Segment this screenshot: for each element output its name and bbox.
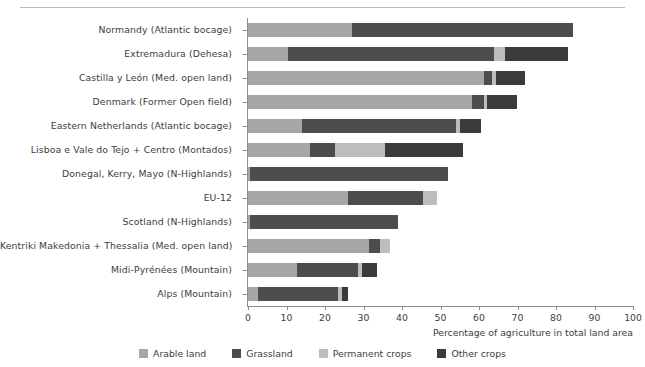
y-axis-line (247, 18, 248, 306)
stacked-bar[interactable] (248, 287, 348, 301)
bar-segment-grassland (288, 47, 494, 61)
x-axis-tick (556, 306, 557, 310)
x-axis-tick-label: 40 (396, 312, 408, 323)
bar-segment-arable-land (248, 47, 288, 61)
bar-segment-grassland (297, 263, 358, 277)
legend-swatch-icon (139, 349, 148, 358)
stacked-bar[interactable] (248, 143, 463, 157)
x-axis-tick-label: 100 (624, 312, 642, 323)
category-label-column: Normandy (Atlantic bocage)Extremadura (D… (0, 18, 238, 306)
legend-label: Other crops (451, 348, 506, 359)
legend-item[interactable]: Arable land (139, 348, 206, 359)
bar-segment-grassland (310, 143, 335, 157)
category-label: Scotland (N-Highlands) (0, 210, 238, 234)
bar-segment-arable-land (248, 287, 258, 301)
y-axis-tick (243, 270, 248, 271)
x-axis-tick-label: 0 (245, 312, 251, 323)
stacked-bar[interactable] (248, 167, 448, 181)
bar-row (248, 42, 633, 66)
x-axis-tick-label: 20 (319, 312, 331, 323)
stacked-bar[interactable] (248, 23, 573, 37)
category-label: Kentriki Makedonia + Thessalia (Med. ope… (0, 234, 238, 258)
stacked-bar[interactable] (248, 119, 481, 133)
bar-segment-grassland (250, 167, 448, 181)
y-axis-tick (243, 126, 248, 127)
x-axis-tick (248, 306, 249, 310)
bar-row (248, 138, 633, 162)
y-axis-tick (243, 198, 248, 199)
bar-row (248, 18, 633, 42)
stacked-bar[interactable] (248, 47, 568, 61)
bar-segment-grassland (352, 23, 573, 37)
legend-label: Arable land (153, 348, 206, 359)
bar-segment-grassland (250, 215, 398, 229)
y-axis-tick (243, 150, 248, 151)
x-axis-tick-label: 70 (512, 312, 524, 323)
bar-segment-arable-land (248, 95, 472, 109)
x-axis-title: Percentage of agriculture in total land … (433, 327, 633, 338)
x-axis-tick-label: 10 (281, 312, 293, 323)
x-axis-tick-label: 60 (473, 312, 485, 323)
bar-segment-other-crops (460, 119, 481, 133)
category-label: Castilla y León (Med. open land) (0, 66, 238, 90)
bar-segment-other-crops (385, 143, 463, 157)
bar-segment-other-crops (505, 47, 568, 61)
x-axis-tick (633, 306, 634, 310)
legend-swatch-icon (232, 349, 241, 358)
bar-segment-permanent-crops (380, 239, 390, 253)
x-axis-tick-label: 50 (435, 312, 447, 323)
legend-swatch-icon (437, 349, 446, 358)
bar-segment-grassland (484, 71, 492, 85)
bar-segment-permanent-crops (335, 143, 385, 157)
bar-segment-arable-land (248, 263, 297, 277)
bar-segment-other-crops (496, 71, 525, 85)
x-axis-tick-label: 90 (589, 312, 601, 323)
stacked-bar[interactable] (248, 95, 517, 109)
y-axis-tick (243, 78, 248, 79)
category-label: EU-12 (0, 186, 238, 210)
y-axis-tick (243, 54, 248, 55)
legend-item[interactable]: Permanent crops (319, 348, 412, 359)
category-label: Extremadura (Dehesa) (0, 42, 238, 66)
x-axis-tick (287, 306, 288, 310)
y-axis-tick (243, 30, 248, 31)
category-label: Donegal, Kerry, Mayo (N-Highlands) (0, 162, 238, 186)
legend-swatch-icon (319, 349, 328, 358)
bar-segment-arable-land (248, 23, 352, 37)
stacked-bar[interactable] (248, 215, 398, 229)
bar-segment-arable-land (248, 71, 484, 85)
bar-row (248, 114, 633, 138)
x-axis-tick (402, 306, 403, 310)
bar-segment-grassland (302, 119, 456, 133)
bar-segment-arable-land (248, 119, 302, 133)
chart-legend: Arable landGrasslandPermanent cropsOther… (0, 348, 645, 359)
bar-segment-grassland (369, 239, 380, 253)
bar-row (248, 162, 633, 186)
legend-item[interactable]: Grassland (232, 348, 293, 359)
bar-row (248, 234, 633, 258)
category-label: Normandy (Atlantic bocage) (0, 18, 238, 42)
stacked-bar[interactable] (248, 71, 525, 85)
x-axis-tick-label: 80 (550, 312, 562, 323)
bar-row (248, 258, 633, 282)
bar-segment-permanent-crops (423, 191, 437, 205)
category-label: Midi-Pyrénées (Mountain) (0, 258, 238, 282)
bar-segment-other-crops (342, 287, 348, 301)
bar-row (248, 66, 633, 90)
legend-item[interactable]: Other crops (437, 348, 506, 359)
bar-segment-arable-land (248, 239, 369, 253)
bar-segment-grassland (258, 287, 338, 301)
legend-label: Permanent crops (333, 348, 412, 359)
x-axis-tick (595, 306, 596, 310)
x-axis-tick (479, 306, 480, 310)
bar-segment-other-crops (487, 95, 517, 109)
y-axis-tick (243, 174, 248, 175)
stacked-bar[interactable] (248, 191, 437, 205)
y-axis-tick (243, 222, 248, 223)
plot-area (248, 18, 633, 306)
x-axis-tick (364, 306, 365, 310)
stacked-bar[interactable] (248, 239, 390, 253)
bar-segment-arable-land (248, 143, 310, 157)
category-label: Alps (Mountain) (0, 282, 238, 306)
stacked-bar[interactable] (248, 263, 377, 277)
